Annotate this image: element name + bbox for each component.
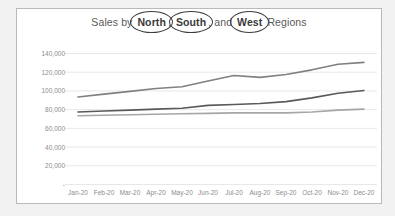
x-tick-label: May-20	[171, 189, 193, 196]
x-tick-label: Aug-20	[250, 189, 271, 196]
line-series-south[interactable]	[78, 90, 364, 112]
x-tick-label: Sep-20	[276, 189, 297, 196]
screenshot-root: Sales by North, South, and West Regions …	[0, 0, 395, 216]
x-tick-label: Mar-20	[120, 189, 141, 196]
plot-area: -20,00040,00060,00080,000100,000120,0001…	[17, 9, 382, 204]
excel-chart-object[interactable]: Sales by North, South, and West Regions …	[16, 8, 382, 204]
series-lines	[17, 9, 382, 204]
y-tick-label: 120,000	[21, 68, 65, 75]
y-tick-label: 20,000	[21, 162, 65, 169]
x-tick-label: Nov-20	[328, 189, 349, 196]
y-tick-label: -	[21, 181, 65, 188]
y-tick-label: 40,000	[21, 143, 65, 150]
y-tick-label: 140,000	[21, 50, 65, 57]
y-tick-label: 100,000	[21, 87, 65, 94]
y-tick-label: 60,000	[21, 124, 65, 131]
x-tick-label: Dec-20	[354, 189, 375, 196]
x-tick-label: Apr-20	[146, 189, 166, 196]
x-tick-label: Jan-20	[68, 189, 88, 196]
x-tick-label: Oct-20	[302, 189, 322, 196]
x-tick-label: Jul-20	[225, 189, 243, 196]
x-tick-label: Feb-20	[94, 189, 115, 196]
x-tick-label: Jun-20	[198, 189, 218, 196]
y-tick-label: 80,000	[21, 106, 65, 113]
line-series-north[interactable]	[78, 62, 364, 97]
